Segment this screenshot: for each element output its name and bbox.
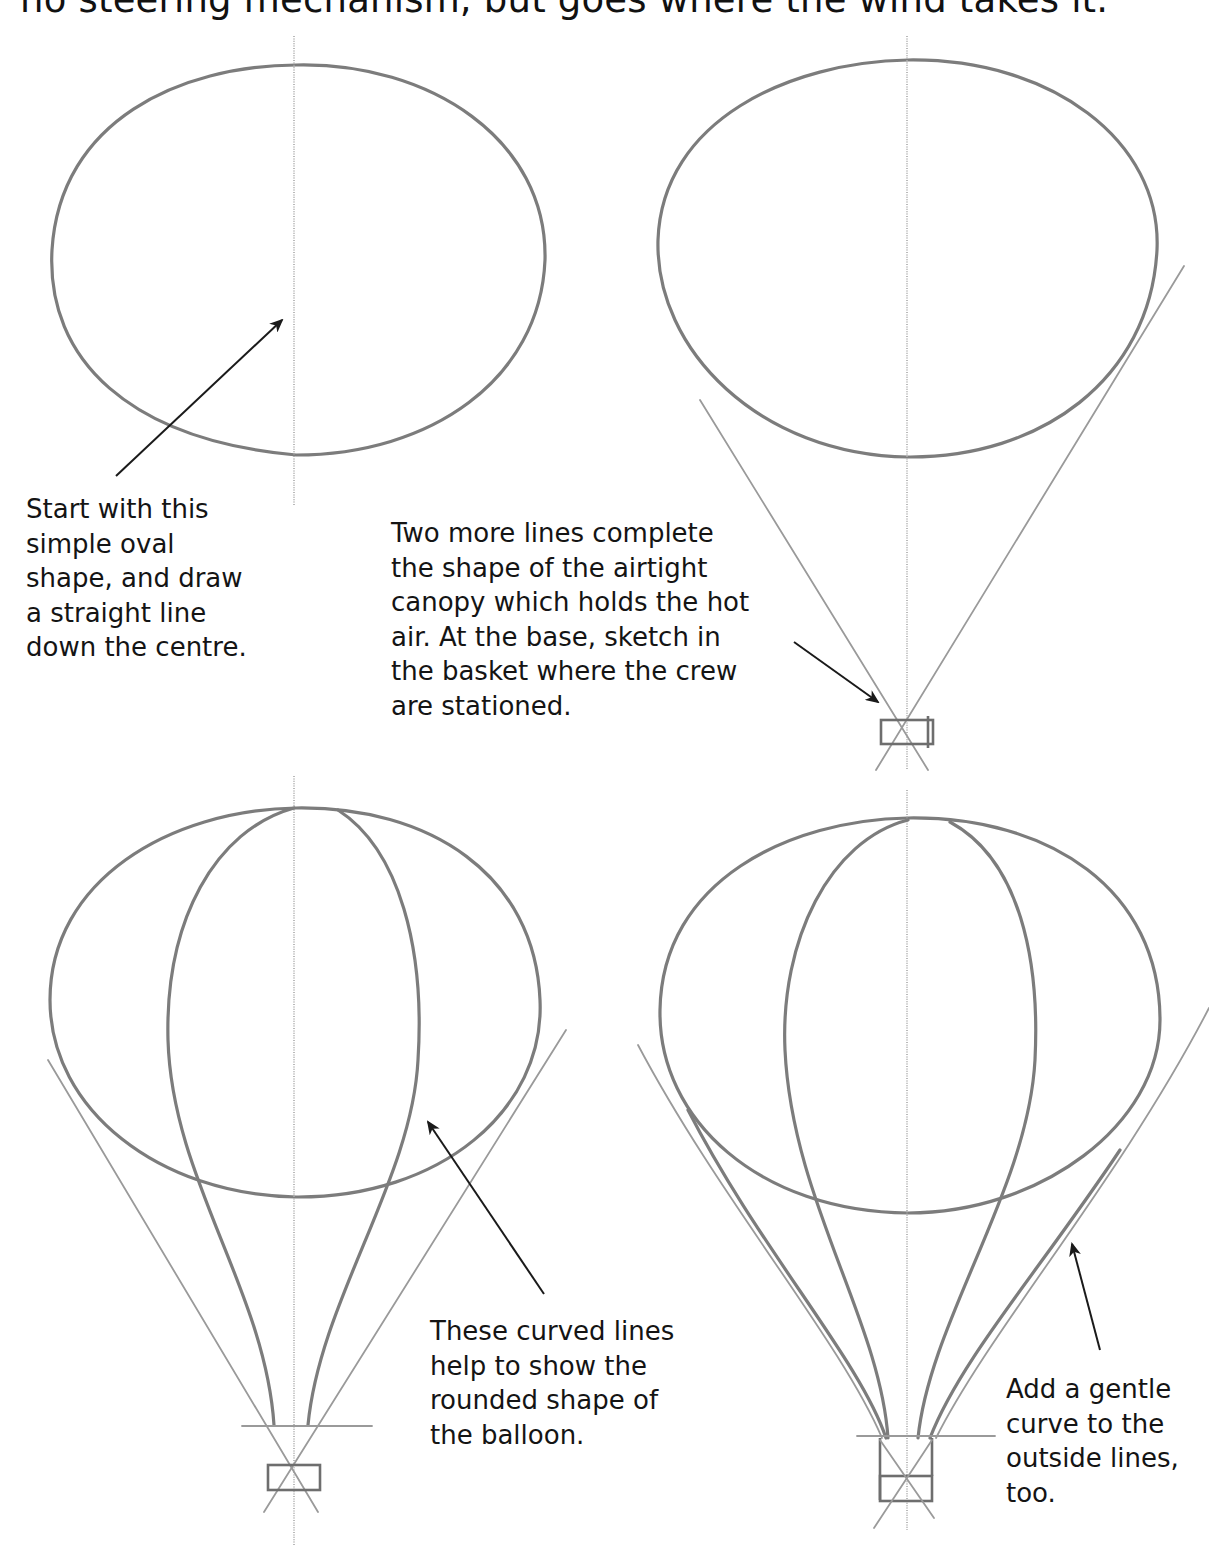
caption-line: Two more lines complete (391, 516, 749, 551)
caption-line: help to show the (430, 1349, 674, 1384)
caption-line: down the centre. (26, 630, 247, 665)
caption-line: air. At the base, sketch in (391, 620, 749, 655)
caption-line: canopy which holds the hot (391, 585, 749, 620)
caption-line: curve to the (1006, 1407, 1179, 1442)
step3-caption: These curved lines help to show the roun… (430, 1314, 674, 1452)
caption-line: Add a gentle (1006, 1372, 1179, 1407)
step1-oval-sketch (52, 36, 545, 505)
tutorial-page: no steering mechanism, but goes where th… (0, 0, 1209, 1551)
step2-caption: Two more lines complete the shape of the… (391, 516, 749, 723)
caption-line: rounded shape of (430, 1383, 674, 1418)
step4-arrow (1072, 1244, 1100, 1350)
caption-line: outside lines, (1006, 1441, 1179, 1476)
caption-line: a straight line (26, 596, 247, 631)
caption-line: shape, and draw (26, 561, 247, 596)
caption-line: the shape of the airtight (391, 551, 749, 586)
step1-caption: Start with this simple oval shape, and d… (26, 492, 247, 665)
step4-caption: Add a gentle curve to the outside lines,… (1006, 1372, 1179, 1510)
caption-line: the balloon. (430, 1418, 674, 1453)
caption-line: simple oval (26, 527, 247, 562)
caption-line: Start with this (26, 492, 247, 527)
caption-line: are stationed. (391, 689, 749, 724)
caption-line: These curved lines (430, 1314, 674, 1349)
step3-arrow (428, 1122, 544, 1294)
caption-line: too. (1006, 1476, 1179, 1511)
step2-arrow (794, 642, 878, 702)
step1-arrow (116, 320, 282, 476)
caption-line: the basket where the crew (391, 654, 749, 689)
